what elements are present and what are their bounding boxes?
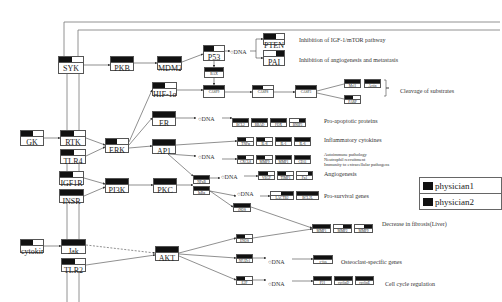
node-igf1r: IGF1R bbox=[59, 171, 84, 185]
node-bcl2l: BCL2L bbox=[296, 191, 319, 200]
node-mmp1: MMP1 bbox=[275, 155, 292, 164]
node-label: MMP2 bbox=[334, 229, 351, 234]
node-label: CASP3 bbox=[296, 90, 316, 95]
dna-ap1: ○DNA bbox=[198, 154, 215, 160]
node-label: PAI bbox=[264, 57, 284, 69]
node-jak: Jak bbox=[61, 239, 86, 254]
node-il1: IL-1 bbox=[275, 137, 292, 146]
node-bax: BAX bbox=[204, 67, 224, 78]
node-nfatc1: NFATc1 bbox=[236, 254, 253, 263]
node-label: MMP1 bbox=[276, 160, 291, 165]
node-tnfa: TNFα bbox=[237, 137, 254, 146]
node-hif1a: HIF-1α bbox=[152, 82, 177, 96]
node-label: TLR2 bbox=[62, 265, 85, 277]
ann-igf: Inhibition of IGF-1/mTOR pathway bbox=[299, 37, 385, 43]
node-label: cyclinE bbox=[356, 281, 373, 286]
node-fn1: Fn1 bbox=[296, 171, 313, 180]
node-label: FOX bbox=[271, 123, 286, 128]
node-label: GK bbox=[21, 137, 43, 149]
legend-item-physician2: physician2 bbox=[420, 193, 501, 209]
node-label: SYK bbox=[59, 63, 83, 75]
node-label: cytokine bbox=[21, 246, 43, 258]
node-gk: GK bbox=[20, 130, 44, 146]
node-pi3k: PI3K bbox=[105, 178, 129, 193]
node-label: TNFα bbox=[238, 142, 253, 147]
node-vegf: VEGF bbox=[258, 171, 275, 180]
node-label: Jak bbox=[62, 246, 85, 258]
node-cxcl8: CXCL8 bbox=[237, 155, 254, 164]
node-label: Fn1 bbox=[297, 176, 312, 181]
node-label: CXCL8 bbox=[238, 160, 253, 165]
ann-fibrosis: Decrease in fibrosis(Liver) bbox=[382, 221, 447, 227]
node-mmp9b: MMP9 bbox=[354, 224, 373, 233]
node-label: ENOS bbox=[237, 239, 252, 244]
node-il8: IL-8 bbox=[256, 137, 273, 146]
node-cd11: CD11 bbox=[294, 155, 311, 164]
node-er: ER bbox=[152, 111, 176, 126]
dna-nfkb: ○DNA bbox=[221, 174, 238, 180]
node-label: BCL2L bbox=[297, 196, 318, 201]
node-mdm2: MDM2 bbox=[157, 56, 182, 70]
node-erk: ERK bbox=[105, 138, 129, 153]
ann-cleavage: Cleavage of substrates bbox=[400, 88, 454, 94]
node-parp: PARP bbox=[344, 95, 361, 104]
node-bbad: BBAD bbox=[251, 118, 268, 127]
legend-swatch-physician1 bbox=[423, 182, 433, 190]
node-mmp1b: MMP1 bbox=[312, 224, 331, 233]
node-rtk: RTK bbox=[60, 130, 86, 146]
node-inos: iNOS bbox=[233, 203, 251, 212]
node-label: TLR4 bbox=[61, 156, 85, 168]
node-casp3: CASP3 bbox=[295, 85, 317, 98]
node-label: LACTB2 bbox=[271, 196, 293, 201]
node-mcl1: Mcl1 bbox=[344, 79, 361, 88]
ann-osteo: Osteoclast-specific genes bbox=[341, 259, 402, 265]
dna-nfatc1: ○DNA bbox=[268, 259, 285, 265]
node-mmp9: MMP9 bbox=[256, 155, 273, 164]
dna-er: ○DNA bbox=[198, 116, 215, 122]
node-label: MDM2 bbox=[158, 63, 181, 75]
node-label: cyclinD bbox=[335, 281, 352, 286]
node-cfos: c-fos bbox=[313, 255, 333, 264]
node-enos: ENOS bbox=[236, 234, 253, 243]
node-nfkb: NFκB bbox=[193, 175, 210, 184]
node-tlr4: TLR4 bbox=[60, 149, 86, 164]
node-actin: Actin bbox=[364, 79, 381, 88]
node-mmp2: MMP2 bbox=[333, 224, 352, 233]
node-label: BNIP3 bbox=[290, 123, 305, 128]
node-insr: INSR bbox=[59, 189, 84, 203]
node-e2f: E2F bbox=[236, 276, 253, 285]
node-label: HIF-1α bbox=[153, 89, 176, 101]
node-bcl2: BCL2 bbox=[232, 118, 249, 127]
node-cycline: cyclinE bbox=[355, 276, 374, 285]
ann-cellcycle: Cell cycle regulation bbox=[385, 281, 435, 287]
node-label: P21 bbox=[314, 281, 331, 286]
node-pten: PTEN bbox=[263, 33, 285, 45]
ann-inflam: Inflammatory cytokines bbox=[324, 137, 381, 143]
node-label: BCL2 bbox=[233, 123, 248, 128]
node-cyclind: cyclinD bbox=[334, 276, 353, 285]
node-p53: P53 bbox=[203, 45, 225, 61]
node-label: AKT bbox=[156, 253, 178, 265]
node-label: NFATc1 bbox=[237, 259, 252, 264]
node-label: MMP9 bbox=[257, 160, 272, 165]
legend-item-physician1: physician1 bbox=[420, 178, 501, 193]
legend-label: physician2 bbox=[435, 197, 474, 207]
node-label: ER bbox=[153, 118, 175, 130]
node-label: MMP1 bbox=[313, 229, 330, 234]
node-label: RTK bbox=[61, 137, 85, 149]
node-label: Actin bbox=[365, 84, 380, 89]
node-label: PKC bbox=[154, 185, 176, 197]
node-akt: AKT bbox=[155, 246, 179, 261]
node-label: PKB bbox=[111, 63, 133, 75]
node-bnip3: BNIP3 bbox=[289, 118, 306, 127]
node-label: IκBα bbox=[194, 191, 209, 196]
dna-e2f: ○DNA bbox=[268, 281, 285, 287]
ann-prosurv: Pro-survival genes bbox=[324, 193, 369, 199]
node-ap1: AP1 bbox=[152, 139, 176, 154]
node-label: PI3K bbox=[106, 185, 128, 197]
node-ikba: IκBα bbox=[193, 186, 210, 195]
node-cytokine: cytokine bbox=[20, 239, 44, 253]
node-pkc: PKC bbox=[153, 178, 177, 193]
legend-swatch-physician2 bbox=[423, 198, 433, 206]
node-label: VEGF bbox=[259, 176, 274, 181]
